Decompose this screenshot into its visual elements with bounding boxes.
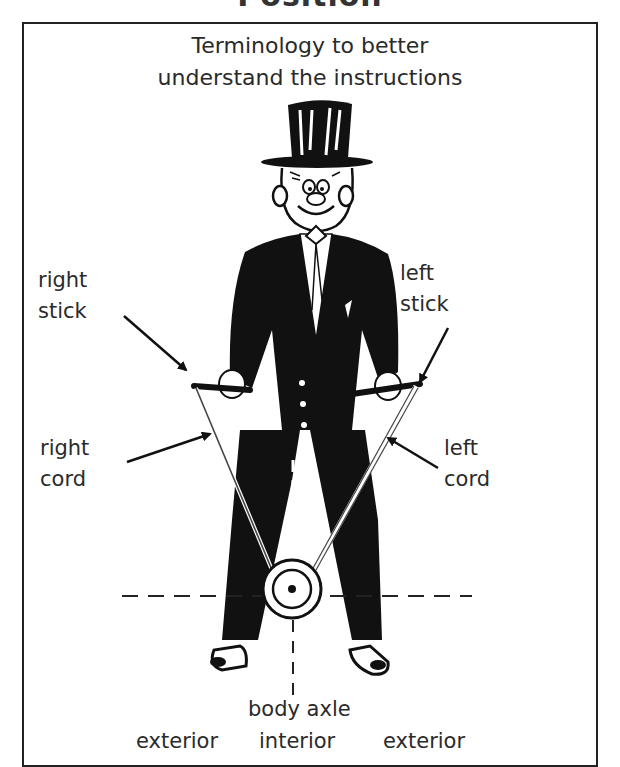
label-right-cord-line2: cord <box>40 464 89 495</box>
label-left-cord-line2: cord <box>444 464 490 495</box>
label-left-stick-line2: stick <box>400 289 449 320</box>
label-right-cord-line1: right <box>40 433 89 464</box>
label-exterior-left: exterior <box>136 726 218 757</box>
label-interior: interior <box>259 726 335 757</box>
label-left-stick: left stick <box>400 258 449 320</box>
top-hat-icon <box>261 100 373 168</box>
arrow-right-cord-icon <box>127 434 210 462</box>
diabolo-icon <box>263 560 321 618</box>
label-left-cord: left cord <box>444 433 490 495</box>
label-exterior-right: exterior <box>383 726 465 757</box>
label-right-stick-line1: right <box>38 265 87 296</box>
shoes-icon <box>210 646 388 674</box>
arrow-left-stick-icon <box>420 328 448 382</box>
label-left-stick-line1: left <box>400 258 449 289</box>
label-right-stick: right stick <box>38 265 87 327</box>
arrow-left-cord-icon <box>388 438 438 468</box>
right-stick <box>194 386 250 390</box>
right-hand <box>219 370 245 398</box>
label-right-cord: right cord <box>40 433 89 495</box>
label-left-cord-line1: left <box>444 433 490 464</box>
arrow-right-stick-icon <box>124 316 186 370</box>
label-right-stick-line2: stick <box>38 296 87 327</box>
tuxedo-jacket <box>230 226 398 430</box>
label-body-axle: body axle <box>248 694 351 725</box>
face-icon <box>273 168 353 231</box>
